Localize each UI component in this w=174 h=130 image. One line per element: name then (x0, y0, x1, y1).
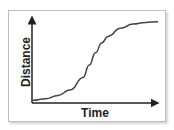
distance-curve (33, 22, 158, 101)
y-axis-label: Distance (19, 37, 33, 87)
x-axis-label: Time (81, 106, 109, 120)
